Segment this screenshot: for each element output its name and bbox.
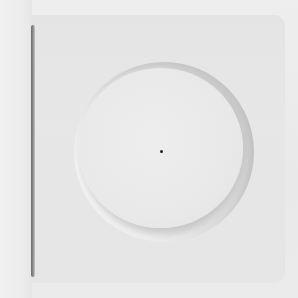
left-background-strip xyxy=(0,0,32,298)
circular-recess-center xyxy=(78,68,243,228)
plate-left-edge xyxy=(31,25,35,277)
photo-background xyxy=(0,0,298,298)
center-dot xyxy=(160,150,163,153)
